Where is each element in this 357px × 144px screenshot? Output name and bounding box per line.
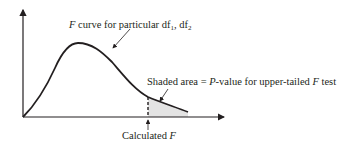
shaded-label-suffix: test: [319, 76, 336, 87]
curve-label-sep: , df: [174, 19, 188, 30]
curve-label: F curve for particular df1, df2: [69, 20, 191, 32]
shaded-label-prefix: Shaded area =: [147, 76, 209, 87]
calc-label-f: F: [170, 130, 176, 141]
curve-label-sub2: 2: [188, 24, 192, 32]
shaded-pointer-arrow: [160, 89, 168, 101]
calculated-f-label: Calculated F: [122, 131, 176, 142]
curve-label-text: curve for particular df: [75, 19, 170, 30]
shaded-label-mid: -value for upper-tailed: [216, 76, 313, 87]
shaded-area-label: Shaded area = P-value for upper-tailed F…: [147, 77, 336, 88]
calc-label-text: Calculated: [122, 130, 170, 141]
